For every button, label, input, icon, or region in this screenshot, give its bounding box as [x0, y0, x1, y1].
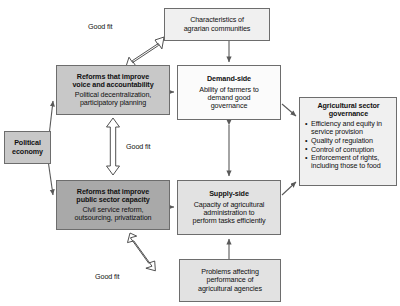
- connector-political-to-capacity: [48, 160, 53, 195]
- supply-title: Supply-side: [209, 190, 249, 198]
- demand-body-line-3: governance: [211, 102, 248, 110]
- voice-title-line-2: voice and accountability: [72, 81, 153, 89]
- list-item: Quality of regulation: [305, 137, 392, 145]
- box-supply-side[interactable]: Supply-side Capacity of agricultural adm…: [177, 180, 281, 235]
- governance-title-line-2: governance: [305, 110, 392, 118]
- problems-line-3: agricultural agencies: [198, 285, 262, 293]
- connector-supply-to-governance: [282, 182, 296, 195]
- political-title-line-2: economy: [12, 148, 43, 156]
- diagram-canvas: Characteristics of agrarian communities …: [0, 0, 400, 306]
- connector-demand-to-governance: [282, 104, 296, 116]
- good-fit-arrow-top: [126, 37, 164, 67]
- demand-title: Demand-side: [207, 75, 251, 83]
- box-characteristics-of-agrarian-communities[interactable]: Characteristics of agrarian communities: [164, 8, 270, 41]
- box-reforms-public-sector-capacity[interactable]: Reforms that improve public sector capac…: [56, 180, 170, 230]
- box-problems-affecting-performance[interactable]: Problems affecting performance of agricu…: [179, 259, 281, 302]
- box-demand-side[interactable]: Demand-side Ability of farmers to demand…: [177, 65, 281, 120]
- good-fit-arrow-middle: [107, 118, 120, 175]
- box-political-economy[interactable]: Political economy: [4, 131, 51, 164]
- voice-body-line-2: participatory planning: [80, 99, 146, 107]
- box-reforms-voice-and-accountability[interactable]: Reforms that improve voice and accountab…: [56, 65, 170, 115]
- label-good-fit-bottom: Good fit: [95, 272, 119, 281]
- list-item: Enforcement of rights, including those t…: [305, 154, 392, 170]
- list-item: Efficiency and equity in service provisi…: [305, 120, 392, 136]
- capacity-title-line-2: public sector capacity: [76, 196, 149, 204]
- good-fit-arrow-bottom: [128, 233, 156, 271]
- box-agricultural-sector-governance[interactable]: Agricultural sector governance Efficienc…: [299, 97, 397, 186]
- label-good-fit-top: Good fit: [88, 22, 112, 31]
- capacity-body-line-2: outsourcing, privatization: [75, 214, 152, 222]
- label-good-fit-middle: Good fit: [126, 142, 150, 151]
- characteristics-line-2: agrarian communities: [184, 25, 251, 33]
- supply-body-line-3: perform tasks efficiently: [193, 217, 266, 225]
- governance-bullet-list: Efficiency and equity in service provisi…: [305, 120, 392, 171]
